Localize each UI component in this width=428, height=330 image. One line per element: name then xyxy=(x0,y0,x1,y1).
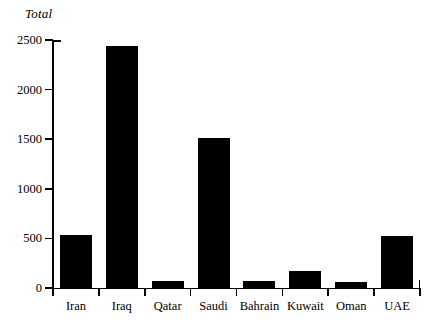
y-axis-tick-label: 1500 xyxy=(0,133,42,146)
x-axis-label-uae: UAE xyxy=(374,300,420,313)
y-axis-tick xyxy=(45,188,53,190)
x-axis-tick xyxy=(190,288,192,296)
x-axis-tick xyxy=(144,288,146,296)
y-axis-tick xyxy=(45,89,53,91)
bar-uae xyxy=(381,236,413,288)
bar-oman xyxy=(335,282,367,288)
y-axis-tick xyxy=(45,138,53,140)
bar-iran xyxy=(60,235,92,288)
y-axis-tick xyxy=(45,238,53,240)
y-axis-tick-label: 0 xyxy=(0,282,42,295)
x-axis-label-bahrain: Bahrain xyxy=(237,300,283,313)
x-axis-tick xyxy=(52,288,54,296)
x-axis-tick xyxy=(98,288,100,296)
x-axis-label-saudi: Saudi xyxy=(191,300,237,313)
x-axis-label-iran: Iran xyxy=(53,300,99,313)
y-axis-title: Total xyxy=(25,6,52,22)
x-axis-label-oman: Oman xyxy=(328,300,374,313)
x-axis-tick xyxy=(327,288,329,296)
x-axis-tick xyxy=(236,288,238,296)
y-axis-tick xyxy=(45,39,53,41)
bar-iraq xyxy=(106,46,138,288)
bar-qatar xyxy=(152,281,184,288)
x-axis-label-qatar: Qatar xyxy=(145,300,191,313)
x-axis-tick xyxy=(373,288,375,296)
y-axis-tick-label: 1000 xyxy=(0,183,42,196)
bar-saudi xyxy=(198,138,230,288)
y-axis-tick-label: 2000 xyxy=(0,84,42,97)
bar-bahrain xyxy=(243,281,275,288)
x-axis-label-iraq: Iraq xyxy=(99,300,145,313)
bar-kuwait xyxy=(289,271,321,288)
x-axis-tick xyxy=(419,288,421,296)
y-axis-tick-label: 2500 xyxy=(0,34,42,47)
x-axis-tick xyxy=(282,288,284,296)
plot-area xyxy=(53,40,420,288)
x-axis-label-kuwait: Kuwait xyxy=(282,300,328,313)
y-axis-tick-label: 500 xyxy=(0,232,42,245)
bar-chart: Total 05001000150020002500 IranIraqQatar… xyxy=(0,0,428,330)
